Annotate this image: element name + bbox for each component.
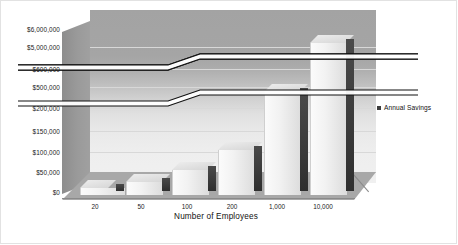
floor-front-edge (62, 198, 355, 199)
x-tick-label: 1,000 (259, 203, 295, 210)
bar-10000 (310, 10, 354, 195)
x-tick-label: 100 (169, 203, 205, 210)
bar-front-face (310, 43, 347, 195)
bar-side-face (162, 178, 170, 191)
y-tick-label: $100,000 (33, 149, 60, 156)
bar-top-face (80, 180, 116, 188)
bar-side-face (208, 166, 216, 191)
bar-20 (80, 10, 124, 195)
bar-side-face (254, 146, 262, 191)
bar-side-face (116, 184, 124, 191)
bar-50 (126, 10, 170, 195)
y-tick-label: $150,000 (33, 128, 60, 135)
chart-container: $6,000,000 $5,000,000 $600,000 $500,000 … (0, 0, 458, 245)
legend-swatch-icon (377, 106, 381, 110)
legend-label: Annual Savings (384, 104, 431, 111)
bar-side-face (300, 88, 308, 191)
bar-side-face (346, 39, 354, 191)
x-tick-label: 10,000 (305, 203, 341, 210)
bar-100 (172, 10, 216, 195)
y-tick-label: $0 (53, 189, 60, 196)
legend: Annual Savings (377, 104, 431, 111)
y-axis: $6,000,000 $5,000,000 $600,000 $500,000 … (0, 0, 60, 245)
x-axis-title: Number of Employees (126, 212, 306, 221)
x-tick-label: 200 (214, 203, 250, 210)
bar-front-face (218, 150, 255, 195)
y-tick-label: $6,000,000 (27, 26, 60, 33)
bar-front-face (264, 92, 301, 195)
x-tick-label: 50 (123, 203, 159, 210)
bar-front-face (172, 170, 209, 195)
bar-front-face (126, 182, 163, 195)
bar-1000 (264, 10, 308, 195)
bar-200 (218, 10, 262, 195)
y-tick-label: $500,000 (33, 84, 60, 91)
y-tick-label: $600,000 (33, 66, 60, 73)
y-tick-label: $5,000,000 (27, 44, 60, 51)
plot-area (62, 10, 376, 200)
x-tick-label: 20 (77, 203, 113, 210)
y-tick-label: $200,000 (33, 105, 60, 112)
y-tick-label: $50,000 (36, 169, 60, 176)
